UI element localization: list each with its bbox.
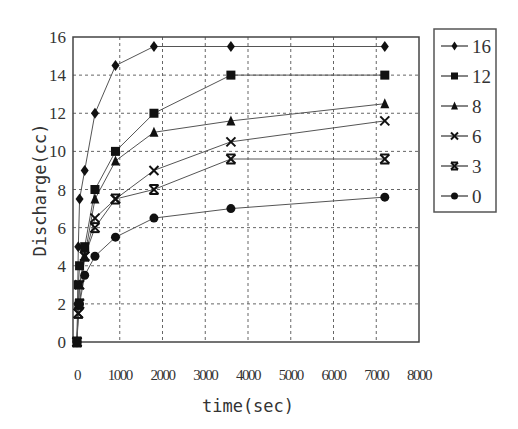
discharge-chart: 0246810121416 01000200030004000500060007… xyxy=(0,0,518,429)
y-tick-label: 4 xyxy=(58,257,67,276)
diamond-marker-icon xyxy=(150,41,158,52)
x-axis-ticks: 010002000300040005000600070008000 xyxy=(74,367,432,383)
series-line-8 xyxy=(77,104,385,342)
diamond-marker-icon xyxy=(111,60,119,71)
circle-marker-icon xyxy=(90,252,99,261)
y-tick-label: 12 xyxy=(49,104,66,123)
x-tick-label: 1000 xyxy=(108,367,133,383)
square-marker-icon xyxy=(451,73,458,80)
grid-lines xyxy=(73,37,419,342)
y-axis-ticks: 0246810121416 xyxy=(49,28,67,352)
x-tick-label: 0 xyxy=(74,367,81,383)
x-tick-label: 3000 xyxy=(193,367,218,383)
x-axis-title: time(sec) xyxy=(202,396,294,416)
circle-marker-icon xyxy=(149,214,158,223)
square-marker-icon xyxy=(380,71,389,80)
y-tick-label: 2 xyxy=(58,295,67,314)
circle-marker-icon xyxy=(75,299,84,308)
legend: 16128630 xyxy=(434,29,496,212)
square-marker-icon xyxy=(80,242,89,251)
square-marker-icon xyxy=(149,109,158,118)
x-tick-label: 7000 xyxy=(364,367,389,383)
square-marker-icon xyxy=(90,185,99,194)
y-axis-title: Discharge(cc) xyxy=(30,123,50,256)
y-tick-label: 6 xyxy=(58,219,67,238)
series-line-16 xyxy=(77,47,385,343)
circle-marker-icon xyxy=(451,193,458,200)
circle-marker-icon xyxy=(380,193,389,202)
diamond-marker-icon xyxy=(81,165,89,176)
x-tick-label: 4000 xyxy=(236,367,261,383)
legend-label: 0 xyxy=(472,186,482,207)
legend-label: 16 xyxy=(472,36,491,57)
y-tick-label: 8 xyxy=(58,181,67,200)
square-marker-icon xyxy=(75,261,84,270)
series-lines xyxy=(77,47,385,343)
circle-marker-icon xyxy=(226,204,235,213)
legend-label: 12 xyxy=(472,66,491,87)
diamond-marker-icon xyxy=(76,194,84,205)
y-tick-label: 10 xyxy=(49,142,66,161)
square-marker-icon xyxy=(111,147,120,156)
legend-label: 3 xyxy=(472,156,482,177)
legend-label: 8 xyxy=(472,96,482,117)
x-marker-icon xyxy=(149,166,158,175)
circle-marker-icon xyxy=(73,338,82,347)
y-tick-label: 16 xyxy=(49,28,66,47)
x-tick-label: 5000 xyxy=(279,367,304,383)
circle-marker-icon xyxy=(80,271,89,280)
x-tick-label: 8000 xyxy=(407,367,432,383)
diamond-marker-icon xyxy=(381,41,389,52)
legend-label: 6 xyxy=(472,126,482,147)
x-tick-label: 2000 xyxy=(151,367,176,383)
diamond-marker-icon xyxy=(227,41,235,52)
series-line-0 xyxy=(77,197,385,342)
star-marker-icon xyxy=(111,195,120,204)
y-tick-label: 14 xyxy=(49,66,67,85)
y-tick-label: 0 xyxy=(58,333,67,352)
triangle-marker-icon xyxy=(90,194,99,204)
x-tick-label: 6000 xyxy=(322,367,347,383)
triangle-marker-icon xyxy=(380,98,389,108)
square-marker-icon xyxy=(226,71,235,80)
diamond-marker-icon xyxy=(91,108,99,119)
circle-marker-icon xyxy=(111,233,120,242)
series-line-3 xyxy=(77,159,385,342)
